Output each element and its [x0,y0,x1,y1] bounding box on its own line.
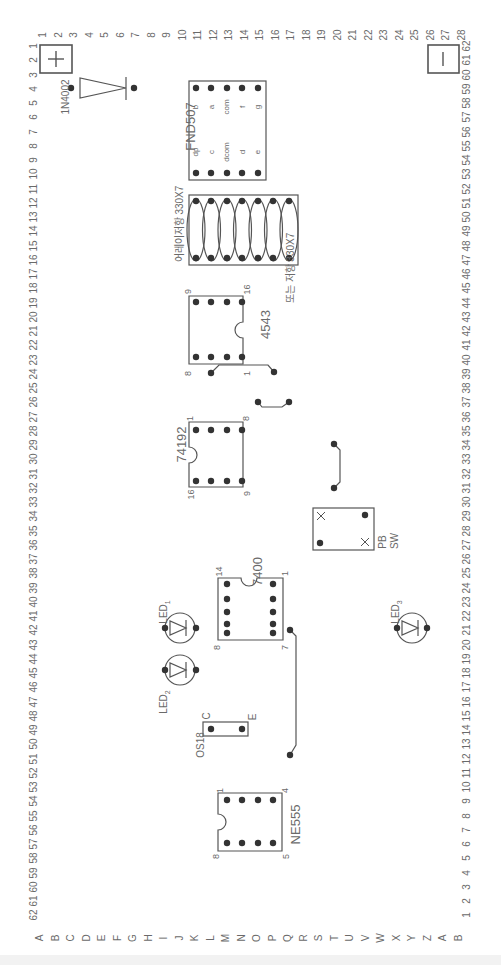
os18-label: OS18 [196,732,206,758]
pb-label: PB [378,535,388,548]
jumper-wire-2 [258,402,289,407]
ne555-pin1: 1 [216,788,225,793]
ic-7400-pin7: 7 [281,645,290,650]
page-footer-strip [0,955,501,965]
ic-7400-pin1: 1 [281,571,290,576]
ic-4543-pin16: 16 [243,284,252,294]
ic-74192-pin16: 16 [187,489,196,499]
fnd-pin-label: e [254,150,262,154]
sw-label: SW [390,533,400,549]
fnd-pin-label: d [239,150,247,154]
ic-4543-pin9: 9 [184,289,193,294]
os18-pin-e: E [248,714,258,721]
fnd-pin-label: dp [192,148,200,157]
ic-7400-pin8: 8 [213,645,222,650]
ne555-label: NE555 [289,805,302,845]
fnd-pin-label: f [239,106,247,108]
ic-74192-pin8: 8 [242,416,251,421]
ic-74192-pin9: 9 [243,491,252,496]
resistor-alt-label: 또는 저항 330X7 [286,233,296,303]
fnd-pin-label: dcom [223,142,231,162]
jumper-wire-3 [334,444,340,488]
ic-74192-label: 74192 [175,426,188,462]
fnd-pin-label: b [192,105,200,109]
ic-4543-pin8: 8 [184,371,193,376]
pin-dots [68,85,430,846]
fnd507-display-body [189,81,266,180]
fnd507-label: FND507 [184,102,197,150]
jumper-wire-4 [290,630,296,755]
fnd-pin-label: c [208,150,216,154]
led2-icon [165,655,195,685]
led2-label: LED2 [159,690,171,713]
led1-label: LED1 [159,600,171,623]
resistor-array-icon [187,199,298,261]
ic-4543-label: 4543 [259,310,272,339]
led3-label: LED3 [391,600,403,623]
ic-7400-label: 7400 [251,557,264,586]
resistor-array-label: 어레이저항 330X7 [175,186,185,263]
ne555-pin4: 4 [281,788,290,793]
diode-icon [80,77,126,100]
fnd-pin-label: g [254,105,262,109]
fnd-pin-label: a [208,105,216,109]
os18-pin-c: C [202,712,212,719]
ic-7400-pin14: 14 [215,566,224,576]
switch-x-icon [317,512,369,546]
ic-4543-pin1: 1 [243,371,252,376]
breadboard-drawing [0,0,501,965]
ne555-pin5: 5 [282,854,291,859]
ne555-pin8: 8 [212,854,221,859]
ic-74192-pin1: 1 [186,416,195,421]
ic-4543-body [189,296,243,364]
fnd-pin-label: com [223,99,231,114]
diode-label: 1N4002 [61,79,71,114]
